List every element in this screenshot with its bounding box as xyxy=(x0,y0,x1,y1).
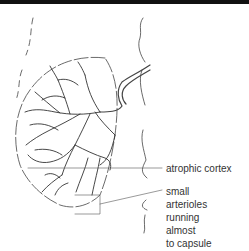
body-outline-right xyxy=(139,18,147,233)
label-atrophic-cortex: atrophic cortex xyxy=(166,163,232,175)
label-line: running xyxy=(166,212,212,225)
label-line: almost xyxy=(166,225,212,238)
label-line: arterioles xyxy=(166,199,212,212)
label-small-arterioles: small arterioles running almost to capsu… xyxy=(166,186,212,251)
arteriole-network xyxy=(25,62,115,195)
arterioles-leader xyxy=(100,190,162,204)
body-outline-left xyxy=(16,18,33,100)
label-line: to capsule xyxy=(166,238,212,251)
label-line: small xyxy=(166,186,212,199)
renal-artery xyxy=(100,65,150,112)
kidney-diagram xyxy=(0,0,249,251)
